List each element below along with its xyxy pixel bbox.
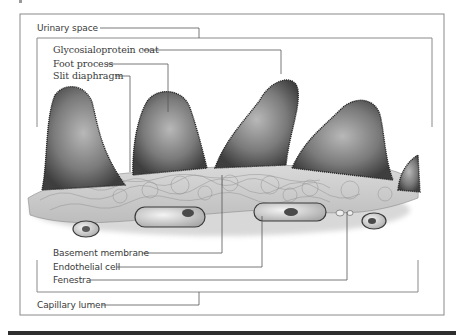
label-basement-membrane: Basement membrane: [53, 248, 149, 258]
label-slit-diaphragm: Slit diaphragm: [53, 71, 123, 81]
urinary-space-leader: [100, 28, 199, 38]
slit-diaphragm-leader: [115, 76, 130, 172]
bottom-rule: [8, 331, 456, 335]
label-urinary-space: Urinary space: [37, 23, 98, 33]
glycosialoprotein-coat-leader: [142, 50, 281, 74]
label-fenestra: Fenestra: [53, 275, 91, 285]
diagram-figure: Urinary space Glycosialoprotein coat Foo…: [0, 0, 463, 335]
label-endothelial-cell: Endothelial cell: [53, 262, 120, 272]
label-glycosialoprotein-coat: Glycosialoprotein coat: [53, 45, 159, 55]
label-foot-process: Foot process: [53, 59, 113, 69]
label-capillary-lumen: Capillary lumen: [37, 300, 106, 310]
capillary-lumen-leader: [102, 292, 199, 305]
